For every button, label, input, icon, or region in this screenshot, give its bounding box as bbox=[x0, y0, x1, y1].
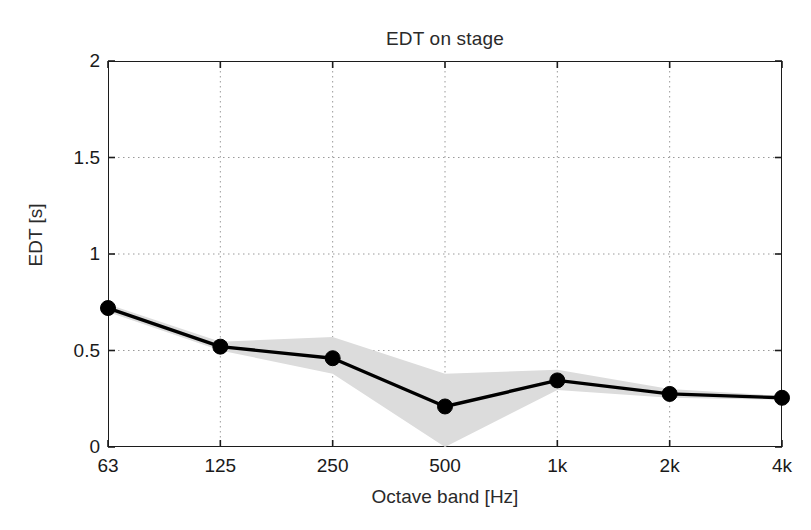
x-tick-labels: 631252505001k2k4k bbox=[0, 455, 811, 485]
y-tick-label: 1.5 bbox=[54, 147, 100, 169]
chart-canvas bbox=[108, 61, 782, 447]
x-axis-title: Octave band [Hz] bbox=[108, 486, 782, 508]
spread-band bbox=[108, 304, 782, 447]
x-tick-label: 500 bbox=[400, 455, 490, 477]
y-tick-label: 0.5 bbox=[54, 340, 100, 362]
x-tick-label: 125 bbox=[175, 455, 265, 477]
y-tick-label: 1 bbox=[54, 243, 100, 265]
x-tick-label: 4k bbox=[737, 455, 811, 477]
x-tick-label: 250 bbox=[288, 455, 378, 477]
chart-title: EDT on stage bbox=[108, 28, 782, 50]
y-tick-label: 2 bbox=[54, 50, 100, 72]
chart-figure: EDT on stage EDT [s] Octave band [Hz] 00… bbox=[0, 0, 811, 530]
x-tick-label: 2k bbox=[625, 455, 715, 477]
x-tick-label: 1k bbox=[512, 455, 602, 477]
x-tick-label: 63 bbox=[63, 455, 153, 477]
y-tick-labels: 00.511.52 bbox=[44, 0, 100, 530]
